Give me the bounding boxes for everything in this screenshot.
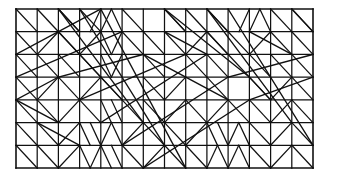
mesh-canvas — [0, 0, 338, 179]
mesh-figure — [0, 0, 338, 179]
